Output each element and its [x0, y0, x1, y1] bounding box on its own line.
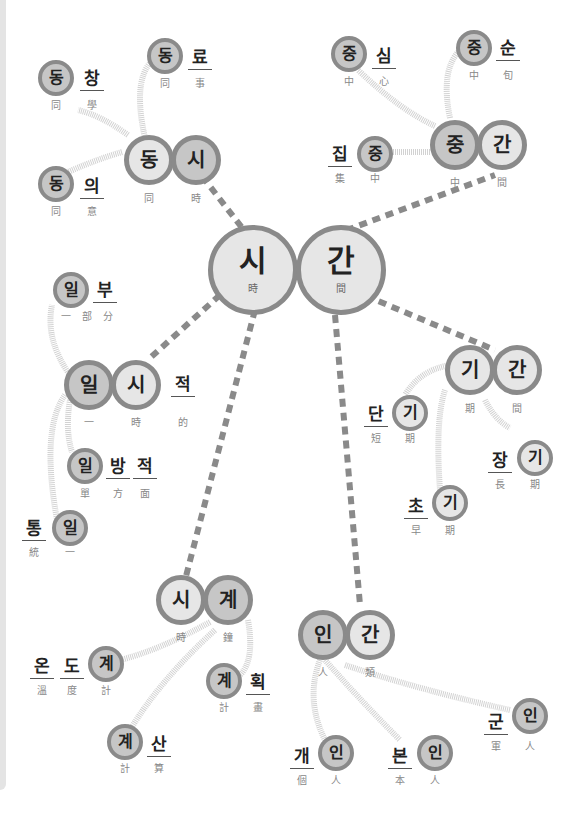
word-gyehoek-a[interactable]: 계 [206, 663, 242, 699]
hub-dongsi-a[interactable]: 동 [124, 135, 174, 185]
hangul: 인 [428, 745, 443, 761]
hanja: 方 [106, 485, 130, 500]
hangul: 계 [217, 673, 232, 689]
hangul: 기 [443, 495, 458, 511]
word-bonin-b[interactable]: 인 [417, 735, 453, 771]
word-jipjung-a: 집 [328, 140, 352, 167]
hub-ilsi-b[interactable]: 시 [111, 360, 161, 410]
hub-gigan-a[interactable]: 기 [445, 345, 495, 395]
word-ilbubun-a[interactable]: 일 [53, 272, 89, 308]
hub-ilsi-suffix: 적 [171, 370, 195, 397]
word-dongchang-a[interactable]: 동 [38, 60, 74, 96]
hangul: 중 [368, 146, 383, 162]
word-jungsim-b: 심 [372, 42, 396, 69]
word-chogi-b[interactable]: 기 [432, 485, 468, 521]
hub-ilsi-a[interactable]: 일 [64, 360, 114, 410]
hanja: 間 [336, 280, 346, 295]
word-ondogye-a: 온 [30, 652, 54, 679]
hanja: 類 [358, 664, 382, 679]
word-gyehoek-b: 획 [246, 668, 270, 695]
hub-ingan-b[interactable]: 간 [345, 610, 395, 660]
word-jipjung-b[interactable]: 중 [357, 136, 393, 172]
hanja: 間 [505, 400, 529, 415]
hub-sigye-b[interactable]: 계 [203, 575, 253, 625]
word-dangi-b[interactable]: 기 [392, 395, 428, 431]
word-janggi-a: 장 [488, 446, 512, 473]
hangul: 시 [127, 375, 145, 395]
hangul: 동 [49, 176, 64, 192]
hanja: 心 [372, 73, 396, 88]
hangul: 간 [361, 625, 379, 645]
word-chogi-a: 초 [404, 492, 428, 519]
hanja: 中 [363, 170, 387, 185]
hub-junggan-a[interactable]: 중 [430, 120, 480, 170]
hanja: 時 [169, 629, 193, 644]
hanja: 時 [184, 190, 208, 205]
hanja: 期 [438, 522, 462, 537]
word-ondogye-c[interactable]: 계 [88, 646, 124, 682]
hanja: 計 [212, 699, 236, 714]
hangul: 동 [158, 48, 173, 64]
hangul: 기 [461, 360, 479, 380]
word-ilbubun-b: 부 [93, 276, 117, 303]
hangul: 기 [403, 405, 418, 421]
hub-junggan-b[interactable]: 간 [477, 120, 527, 170]
hanja: 本 [388, 772, 412, 787]
word-dongchang-b: 창 [80, 64, 104, 91]
word-gunin-b[interactable]: 인 [512, 698, 548, 734]
hanja: 一 [77, 414, 101, 429]
hanja: 計 [113, 760, 137, 775]
word-gunin-a: 군 [484, 708, 508, 735]
word-janggi-b[interactable]: 기 [517, 440, 553, 476]
hanja: 同 [44, 203, 68, 218]
hangul: 간 [508, 360, 526, 380]
hangul: 간 [327, 246, 355, 276]
hanja: 學 [80, 97, 104, 112]
hanja: 人 [423, 772, 447, 787]
hanja: 人 [311, 664, 335, 679]
hangul: 중 [446, 135, 464, 155]
hanja: 單 [73, 485, 97, 500]
hanja: 早 [404, 522, 428, 537]
word-gaein-b[interactable]: 인 [318, 735, 354, 771]
hangul: 동 [140, 150, 158, 170]
hangul: 일 [78, 458, 93, 474]
hanja: 面 [133, 485, 157, 500]
hangul: 시 [239, 246, 267, 276]
word-gaein-a: 개 [290, 742, 314, 769]
hangul: 인 [314, 625, 332, 645]
hangul: 간 [493, 135, 511, 155]
hub-ingan-a[interactable]: 인 [298, 610, 348, 660]
hub-sigye-a[interactable]: 시 [156, 575, 206, 625]
hanja: 鐘 [216, 629, 240, 644]
hub-gigan-b[interactable]: 간 [492, 345, 542, 395]
center-node-gan[interactable]: 간 間 [296, 225, 386, 315]
hanja: 畫 [246, 699, 270, 714]
word-ilbangjeok-a[interactable]: 일 [67, 448, 103, 484]
word-ilbangjeok-b: 방 [106, 452, 130, 479]
word-ondogye-b: 도 [60, 652, 84, 679]
hangul: 인 [523, 708, 538, 724]
word-tongil-b[interactable]: 일 [52, 510, 88, 546]
hub-dongsi-b[interactable]: 시 [171, 135, 221, 185]
hangul: 일 [63, 520, 78, 536]
word-jungsim-a[interactable]: 중 [331, 36, 367, 72]
hanja: 期 [523, 476, 547, 491]
hanja: 的 [171, 414, 195, 429]
center-node-si[interactable]: 시 時 [208, 225, 298, 315]
hanja: 一 [58, 544, 82, 559]
hanja: 統 [22, 544, 46, 559]
word-bonin-a: 본 [388, 742, 412, 769]
hangul: 일 [80, 375, 98, 395]
word-jungsun-a[interactable]: 중 [456, 30, 492, 66]
hanja: 人 [324, 772, 348, 787]
hangul: 기 [528, 450, 543, 466]
word-dongryo-a[interactable]: 동 [147, 38, 183, 74]
hangul: 일 [64, 282, 79, 298]
word-gyesan-a[interactable]: 계 [107, 724, 143, 760]
word-dongryo-b: 료 [188, 43, 212, 70]
hanja: 期 [458, 400, 482, 415]
word-dongui-a[interactable]: 동 [38, 166, 74, 202]
hanja: 軍 [484, 738, 508, 753]
hanja: 人 [518, 738, 542, 753]
